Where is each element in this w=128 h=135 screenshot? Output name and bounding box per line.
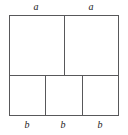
bottom-cell-left xyxy=(9,75,45,116)
top-cell-right xyxy=(64,15,119,75)
top-label-a-left: a xyxy=(26,2,46,12)
partition-diagram-svg xyxy=(0,0,128,135)
rectangle-partition-figure: a a b b b xyxy=(0,0,128,135)
bottom-label-b-left: b xyxy=(17,120,37,130)
bottom-label-b-middle: b xyxy=(53,120,73,130)
bottom-label-b-right: b xyxy=(90,120,110,130)
bottom-cell-middle xyxy=(45,75,82,116)
top-label-a-right: a xyxy=(81,2,101,12)
top-cell-left xyxy=(9,15,64,75)
bottom-cell-right xyxy=(82,75,119,116)
